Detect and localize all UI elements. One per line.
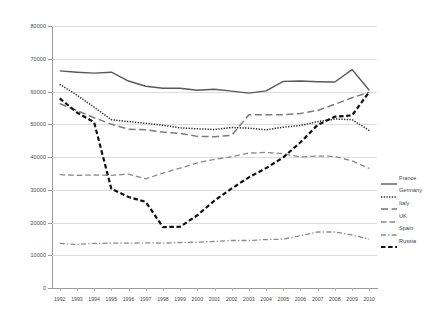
x-tick-mark [60, 288, 61, 291]
series-line-spain [60, 232, 370, 244]
series-group [52, 26, 377, 288]
legend-swatch-icon [381, 187, 397, 195]
y-tick-label: 50000 [2, 121, 46, 127]
x-tick-mark [146, 288, 147, 291]
legend-label: France [399, 175, 416, 182]
legend-item-france[interactable]: France [381, 172, 433, 185]
x-tick-mark [94, 288, 95, 291]
y-tick-label: 30000 [2, 187, 46, 193]
legend-item-russia[interactable]: Russia [381, 235, 433, 248]
legend-swatch-icon [381, 237, 397, 245]
x-tick-mark [249, 288, 250, 291]
legend-label: Spain [399, 225, 413, 232]
x-tick-mark [180, 288, 181, 291]
x-tick-mark [352, 288, 353, 291]
legend-label: Russia [399, 238, 416, 245]
legend-label: Germany [399, 187, 422, 194]
y-tick-label: 60000 [2, 89, 46, 95]
legend-item-uk[interactable]: UK [381, 210, 433, 223]
legend-swatch-icon [381, 199, 397, 207]
y-tick-label: 70000 [2, 56, 46, 62]
legend-swatch-icon [381, 174, 397, 182]
y-tick-label: 20000 [2, 220, 46, 226]
series-line-italy [60, 92, 370, 137]
x-tick-mark [129, 288, 130, 291]
x-tick-label: 2010 [356, 296, 382, 303]
x-tick-mark [300, 288, 301, 291]
x-tick-mark [232, 288, 233, 291]
y-tick-label: 10000 [2, 252, 46, 258]
legend-label: Italy [399, 200, 409, 207]
series-line-france [60, 70, 370, 94]
plot-area [52, 26, 377, 288]
x-tick-mark [335, 288, 336, 291]
x-tick-mark [318, 288, 319, 291]
x-tick-mark [283, 288, 284, 291]
legend-item-italy[interactable]: Italy [381, 197, 433, 210]
x-tick-mark [163, 288, 164, 291]
x-tick-mark [77, 288, 78, 291]
x-tick-mark [215, 288, 216, 291]
chart-legend: FranceGermanyItalyUKSpainRussia [381, 172, 433, 248]
legend-item-spain[interactable]: Spain [381, 222, 433, 235]
legend-swatch-icon [381, 225, 397, 233]
y-tick-mark [48, 288, 52, 289]
y-tick-label: 40000 [2, 154, 46, 160]
x-tick-mark [369, 288, 370, 291]
y-tick-label: 0 [2, 285, 46, 291]
x-tick-mark [111, 288, 112, 291]
legend-label: UK [399, 213, 407, 220]
legend-swatch-icon [381, 212, 397, 220]
y-tick-label: 80000 [2, 23, 46, 29]
line-chart: 0100002000030000400005000060000700008000… [0, 0, 433, 328]
x-tick-mark [266, 288, 267, 291]
legend-item-germany[interactable]: Germany [381, 185, 433, 198]
x-tick-mark [197, 288, 198, 291]
